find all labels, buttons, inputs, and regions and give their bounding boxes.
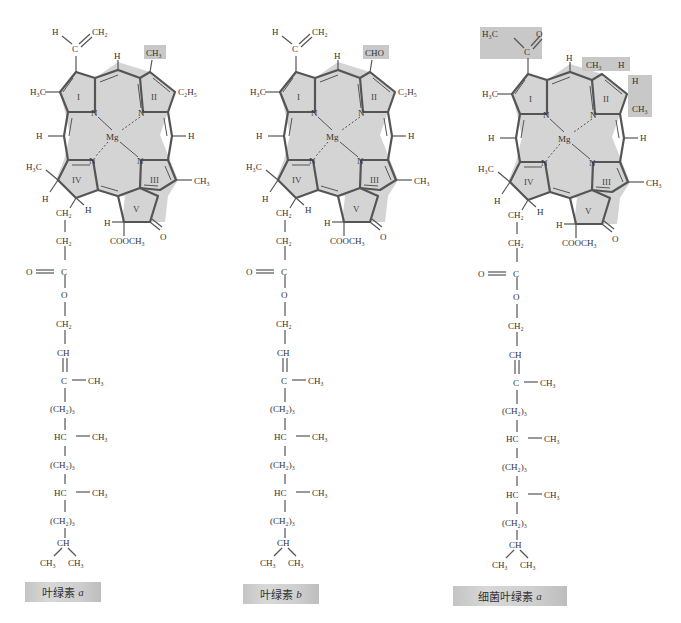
- svg-text:CH₃: CH₃: [40, 558, 56, 568]
- caption-text: 叶绿素: [42, 584, 75, 600]
- svg-text:C: C: [513, 269, 519, 279]
- svg-text:CH₂: CH₂: [508, 238, 524, 248]
- chlorophyll-figure: H CH₂ C CH₃ H CH₂ C CHO H₃C O C CH₃ H H: [0, 0, 681, 623]
- svg-text:CH₂: CH₂: [92, 27, 108, 37]
- svg-text:H: H: [537, 207, 544, 217]
- svg-text:N: N: [309, 156, 316, 166]
- svg-text:CH₃: CH₃: [586, 60, 602, 70]
- svg-text:CH₃: CH₃: [312, 488, 328, 498]
- svg-text:H: H: [334, 51, 341, 61]
- svg-text:H₃C: H₃C: [26, 162, 42, 172]
- svg-text:CH₂: CH₂: [56, 208, 72, 218]
- svg-text:COOCH₃: COOCH₃: [330, 236, 365, 246]
- svg-text:V: V: [353, 204, 360, 214]
- svg-text:CH₃: CH₃: [92, 488, 108, 498]
- svg-text:CH₃: CH₃: [68, 558, 84, 568]
- svg-text:N: N: [357, 156, 364, 166]
- svg-text:H: H: [104, 218, 111, 228]
- svg-text:N: N: [311, 108, 318, 118]
- svg-text:HC: HC: [54, 432, 67, 442]
- svg-text:CH₃: CH₃: [88, 376, 104, 386]
- svg-text:(CH₂)₃: (CH₂)₃: [502, 406, 527, 416]
- svg-text:CH₃: CH₃: [312, 432, 328, 442]
- svg-text:HC: HC: [274, 488, 287, 498]
- structure-chlorophyll-a: H CH₂ C CH₃: [36, 27, 192, 556]
- svg-text:CHO: CHO: [365, 48, 385, 58]
- svg-text:H₃C: H₃C: [30, 87, 46, 97]
- svg-text:H: H: [52, 27, 59, 37]
- caption-letter: b: [296, 588, 302, 600]
- svg-text:N: N: [543, 110, 550, 120]
- svg-text:CH₃: CH₃: [632, 104, 648, 114]
- svg-text:IV: IV: [72, 175, 82, 185]
- svg-text:CH₂: CH₂: [56, 236, 72, 246]
- svg-text:III: III: [150, 175, 159, 185]
- svg-text:CH₃: CH₃: [288, 558, 304, 568]
- svg-text:I: I: [77, 92, 80, 102]
- svg-text:O: O: [281, 290, 288, 300]
- svg-text:III: III: [370, 175, 379, 185]
- svg-text:CH₃: CH₃: [414, 176, 430, 186]
- svg-text:H₃C: H₃C: [482, 29, 498, 39]
- svg-text:N: N: [89, 156, 96, 166]
- svg-text:O: O: [26, 267, 33, 277]
- svg-text:O: O: [160, 232, 167, 242]
- svg-text:CH₃: CH₃: [146, 48, 162, 58]
- svg-text:CH₃: CH₃: [544, 490, 560, 500]
- svg-text:(CH₂)₃: (CH₂)₃: [502, 462, 527, 472]
- svg-text:C: C: [61, 267, 67, 277]
- svg-text:H: H: [632, 76, 639, 86]
- svg-text:C: C: [292, 44, 298, 54]
- svg-text:HC: HC: [54, 488, 67, 498]
- svg-text:III: III: [602, 177, 611, 187]
- svg-text:C₂H₅: C₂H₅: [398, 87, 417, 97]
- svg-text:II: II: [603, 94, 609, 104]
- svg-text:CH₂: CH₂: [276, 236, 292, 246]
- svg-text:CH₃: CH₃: [520, 560, 536, 570]
- svg-text:CH: CH: [509, 350, 522, 360]
- caption-letter: a: [78, 586, 84, 598]
- svg-text:COOCH₃: COOCH₃: [110, 236, 145, 246]
- svg-text:N: N: [589, 158, 596, 168]
- svg-text:N: N: [590, 110, 597, 120]
- svg-text:H: H: [556, 220, 563, 230]
- svg-text:CH₂: CH₂: [312, 27, 328, 37]
- svg-text:CH: CH: [509, 540, 522, 550]
- svg-text:H: H: [618, 60, 625, 70]
- svg-text:H: H: [114, 51, 121, 61]
- svg-text:CH: CH: [277, 538, 290, 548]
- svg-text:HC: HC: [506, 434, 519, 444]
- svg-text:H: H: [640, 133, 647, 143]
- svg-text:IV: IV: [292, 175, 302, 185]
- svg-text:H: H: [488, 133, 495, 143]
- structure-chlorophyll-b: H CH₂ C CHO: [256, 27, 412, 556]
- svg-text:H: H: [494, 196, 501, 206]
- svg-text:Mg: Mg: [558, 134, 571, 144]
- svg-text:CH₃: CH₃: [540, 378, 556, 388]
- svg-text:C: C: [61, 376, 67, 386]
- caption-chlorophyll-b: 叶绿素b: [243, 584, 319, 604]
- svg-text:O: O: [536, 29, 543, 39]
- svg-text:CH₃: CH₃: [260, 558, 276, 568]
- svg-text:CH: CH: [57, 538, 70, 548]
- svg-text:H: H: [36, 131, 43, 141]
- svg-text:O: O: [478, 269, 485, 279]
- svg-text:N: N: [358, 108, 365, 118]
- svg-text:(CH₂)₃: (CH₂)₃: [50, 516, 75, 526]
- svg-text:I: I: [297, 92, 300, 102]
- svg-text:(CH₂)₃: (CH₂)₃: [50, 460, 75, 470]
- caption-chlorophyll-a: 叶绿素a: [25, 582, 101, 602]
- svg-text:C₂H₅: C₂H₅: [178, 87, 197, 97]
- svg-text:CH₂: CH₂: [508, 210, 524, 220]
- svg-text:CH₃: CH₃: [544, 434, 560, 444]
- svg-text:H: H: [188, 131, 195, 141]
- svg-text:I: I: [529, 94, 532, 104]
- caption-bacteriochlorophyll-a: 细菌叶绿素a: [453, 586, 567, 606]
- svg-text:N: N: [138, 108, 145, 118]
- svg-text:CH: CH: [277, 348, 290, 358]
- svg-text:H: H: [262, 194, 269, 204]
- svg-text:HC: HC: [506, 490, 519, 500]
- svg-text:H₃C: H₃C: [478, 164, 494, 174]
- caption-letter: a: [536, 590, 542, 602]
- svg-text:H: H: [42, 194, 49, 204]
